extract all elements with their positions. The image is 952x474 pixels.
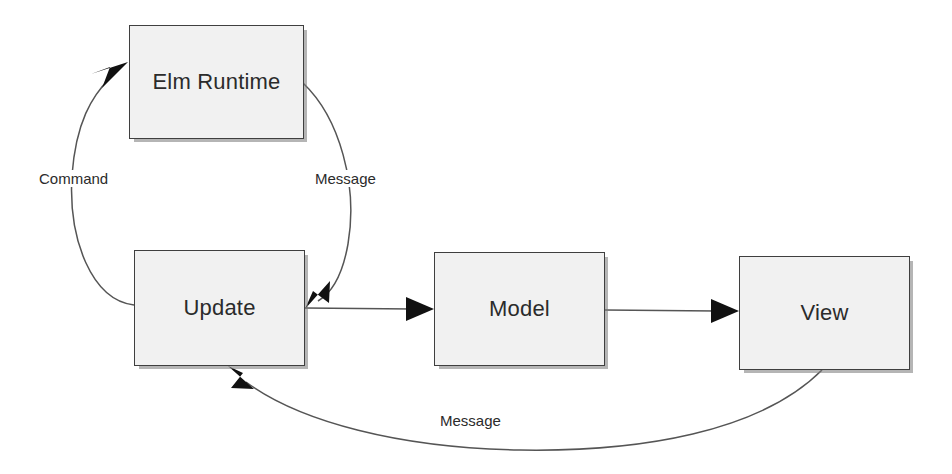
node-update[interactable]: Update [134, 250, 305, 366]
edge-message-top-path [303, 83, 351, 301]
node-view[interactable]: View [739, 256, 910, 370]
edge-command-path [72, 78, 134, 305]
node-model[interactable]: Model [434, 252, 605, 366]
edge-model-to-view-arrowhead [711, 299, 739, 323]
node-update-label: Update [183, 295, 255, 321]
node-elm-runtime[interactable]: Elm Runtime [129, 25, 304, 139]
edge-label-message-bottom: Message [437, 412, 504, 429]
edge-update-to-model-line [305, 308, 412, 309]
edge-model-to-view-line [605, 310, 716, 311]
edge-update-to-model-arrowhead [406, 297, 434, 321]
edge-command-arrowhead [91, 62, 128, 88]
edge-label-message-top: Message [312, 170, 379, 187]
node-elm-runtime-label: Elm Runtime [152, 69, 280, 95]
edge-message-bottom-path [246, 370, 822, 450]
node-model-label: Model [489, 296, 550, 322]
edge-label-command: Command [36, 170, 111, 187]
edge-message-top-arrowhead [305, 281, 330, 309]
diagram-canvas: Elm Runtime Update Model View Command Me… [0, 0, 952, 474]
node-view-label: View [800, 300, 848, 326]
